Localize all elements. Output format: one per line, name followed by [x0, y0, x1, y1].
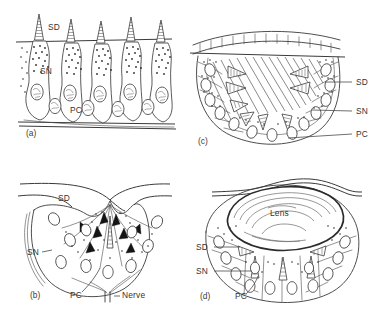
cell-nucleus — [320, 93, 331, 107]
panel-a: SD SN PC (a) — [16, 14, 176, 138]
cornea-inner-line — [193, 41, 340, 54]
panel-caption-b: (b) — [30, 290, 40, 300]
cell-nucleus — [308, 279, 319, 292]
nuclei-left — [200, 62, 299, 141]
panel-c: SD SN PC (c) — [190, 31, 368, 146]
panel-caption-d: (d) — [200, 291, 210, 301]
label-sn: SN — [27, 247, 39, 257]
panel-c-receptor-cells-right — [290, 62, 338, 131]
cell-nucleus — [80, 259, 92, 273]
cup-radial-cell-walls — [62, 205, 152, 268]
cell-nucleus — [55, 254, 68, 269]
lens-body — [227, 187, 343, 251]
sensory-dendrite-icon — [119, 228, 128, 239]
pigment-cell-nucleus — [142, 99, 154, 114]
cell-nucleus — [125, 259, 137, 274]
sensory-dendrite-icon — [279, 257, 287, 280]
label-sd: SD — [356, 77, 368, 87]
label-sd: SD — [196, 242, 208, 252]
panel-a-left-stipple — [20, 47, 28, 93]
panel-caption-c: (c) — [198, 136, 208, 146]
cornea-outer-line — [193, 31, 340, 45]
panel-a-basal-line-2 — [19, 126, 176, 129]
photoreceptor-cell-outline — [26, 41, 50, 120]
panel-c-receptor-cells-left — [198, 62, 298, 141]
cell-nucleus — [287, 282, 297, 295]
cell-nucleus — [46, 211, 62, 228]
sensory-dendrite-icon — [93, 226, 102, 238]
label-sn: SN — [356, 106, 368, 116]
label-sn: SN — [40, 66, 52, 76]
cell-nucleus — [245, 124, 259, 139]
cell-nucleus — [322, 267, 334, 281]
panel-b-receptor-cells — [46, 205, 165, 279]
label-pc: PC — [356, 129, 368, 139]
label-pc: PC — [70, 290, 82, 300]
cell-nucleus — [331, 250, 344, 265]
panel-a-basal-line-1 — [18, 122, 175, 124]
leader-sn-b — [42, 250, 52, 252]
cell-nucleus — [63, 232, 78, 248]
sensory-dendrite-icon — [230, 100, 248, 112]
cell-nucleus — [230, 267, 242, 281]
label-sd: SD — [48, 22, 60, 32]
cell-nucleus — [319, 62, 333, 77]
sensory-dendrite-icon — [35, 14, 44, 40]
cell-nucleus — [338, 234, 353, 250]
pigment-cell-nucleus — [82, 100, 94, 115]
sensory-dendrite-icon — [86, 242, 95, 253]
leader-pc-c — [288, 134, 352, 138]
eye-evolution-diagram: SD SN PC (a) — [0, 0, 380, 315]
cell-nucleus — [200, 78, 212, 93]
label-lens: Lens — [270, 208, 289, 218]
cell-nucleus — [204, 93, 215, 107]
panel-b-epidermis-right — [110, 184, 170, 200]
cell-nucleus — [31, 84, 43, 100]
cell-nucleus — [94, 86, 106, 102]
label-sd: SD — [58, 193, 70, 203]
cell-nucleus — [219, 250, 232, 265]
cell-nucleus — [64, 85, 76, 101]
cell-nucleus — [103, 265, 113, 278]
panel-c-basement-line — [190, 53, 345, 57]
cell-nucleus — [250, 262, 259, 274]
panel-caption-a: (a) — [26, 128, 36, 138]
cell-nucleus — [304, 262, 313, 274]
cornea-epithelium — [190, 31, 345, 57]
cell-nucleus — [156, 87, 168, 103]
cell-nucleus — [124, 84, 136, 100]
cell-nucleus — [310, 106, 321, 120]
cell-nucleus — [267, 129, 277, 142]
label-pc: PC — [70, 105, 82, 115]
panel-d: SD SN PC Lens (d) — [196, 179, 362, 303]
panel-b: SD SN PC Nerve (b) — [18, 183, 172, 302]
cell-nucleus — [212, 234, 227, 250]
label-sn: SN — [196, 266, 208, 276]
panel-b-epidermis-right2 — [134, 196, 172, 205]
cell-nucleus — [265, 282, 275, 295]
label-nerve: Nerve — [122, 290, 145, 300]
figure-root: SD SN PC (a) — [0, 0, 380, 315]
pigment-cell-nucleus — [112, 101, 124, 116]
sensory-dendrite-icon — [226, 82, 246, 94]
pigment-cell-nucleus — [49, 98, 61, 113]
cell-nucleus — [298, 117, 311, 132]
sensory-dendrite-icon — [126, 243, 135, 253]
label-pc: PC — [235, 291, 247, 301]
